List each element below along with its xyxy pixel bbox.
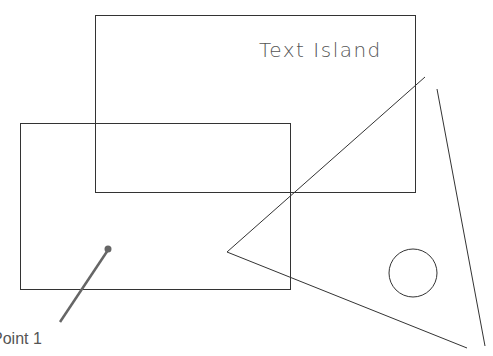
point-1-leader-line <box>60 250 108 322</box>
text-island-label: Text Island <box>259 38 382 62</box>
lower-rectangle[interactable] <box>21 124 291 290</box>
triangle-edge-lower[interactable] <box>227 252 467 348</box>
drawing-canvas: Text Island Point 1 <box>0 0 493 356</box>
triangle-edge-upper[interactable] <box>227 77 425 252</box>
drawing-svg <box>0 0 493 356</box>
point-1-marker[interactable] <box>105 246 112 253</box>
right-line[interactable] <box>437 89 485 346</box>
circle[interactable] <box>389 249 437 297</box>
point-1-label: Point 1 <box>0 330 42 348</box>
